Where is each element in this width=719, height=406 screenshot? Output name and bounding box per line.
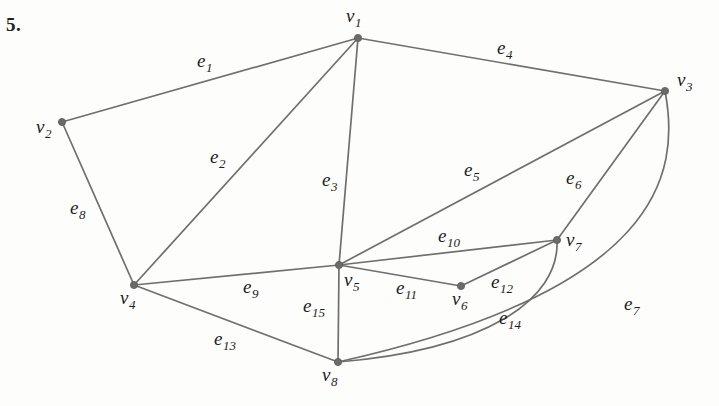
label-base: e [322, 169, 330, 190]
label-base: v [346, 5, 354, 26]
label-base: e [303, 295, 311, 316]
label-subscript: 3 [331, 179, 338, 194]
graph-vertex-v1 [354, 34, 361, 41]
edge-label-e12: e12 [491, 272, 512, 291]
edge-label-e7: e7 [624, 294, 639, 313]
vertex-label-v5: v5 [344, 270, 359, 289]
graph-edge-e2 [134, 38, 358, 285]
edge-label-e13: e13 [214, 329, 235, 348]
label-subscript: 13 [223, 338, 236, 353]
label-base: e [214, 328, 222, 349]
graph-edge-e3 [339, 38, 358, 265]
label-base: e [210, 146, 218, 167]
label-subscript: 2 [219, 156, 226, 171]
edge-label-e4: e4 [497, 38, 512, 57]
label-base: v [36, 116, 44, 137]
graph-canvas [0, 0, 719, 406]
edge-label-e10: e10 [438, 226, 459, 245]
label-subscript: 15 [312, 305, 325, 320]
label-base: e [566, 167, 574, 188]
edge-label-e9: e9 [243, 277, 258, 296]
label-subscript: 5 [473, 169, 480, 184]
label-base: e [396, 277, 404, 298]
vertex-label-v6: v6 [452, 289, 467, 308]
graph-edge-e5 [339, 91, 665, 265]
label-base: e [499, 307, 507, 328]
label-subscript: 9 [252, 286, 259, 301]
label-subscript: 12 [500, 281, 513, 296]
edge-label-e3: e3 [322, 170, 337, 189]
label-base: e [243, 276, 251, 297]
label-base: e [624, 293, 632, 314]
graph-edge-e14 [338, 240, 557, 362]
vertex-label-v2: v2 [36, 117, 51, 136]
edge-label-e2: e2 [210, 147, 225, 166]
label-subscript: 3 [686, 79, 693, 94]
label-base: e [197, 50, 205, 71]
graph-vertex-v5 [335, 261, 342, 268]
label-base: e [464, 159, 472, 180]
label-subscript: 6 [461, 298, 468, 313]
graph-edge-e9 [134, 265, 339, 285]
graph-edge-e15 [338, 265, 339, 362]
edge-label-e15: e15 [303, 296, 324, 315]
label-subscript: 11 [405, 287, 417, 302]
edge-label-e8: e8 [70, 198, 85, 217]
edge-label-e5: e5 [464, 160, 479, 179]
label-base: v [344, 269, 352, 290]
label-subscript: 1 [206, 60, 213, 75]
graph-vertex-v2 [58, 118, 65, 125]
vertex-label-v7: v7 [566, 230, 581, 249]
label-base: e [491, 271, 499, 292]
edge-label-e11: e11 [396, 278, 416, 297]
label-subscript: 7 [633, 303, 640, 318]
edges-group [62, 38, 669, 362]
label-base: v [452, 288, 460, 309]
graph-vertex-v7 [553, 236, 560, 243]
vertices-group [58, 34, 668, 365]
label-base: e [438, 225, 446, 246]
graph-edge-e6 [557, 91, 665, 240]
label-subscript: 4 [506, 47, 513, 62]
vertex-label-v4: v4 [120, 288, 135, 307]
label-subscript: 5 [353, 279, 360, 294]
label-subscript: 7 [575, 239, 582, 254]
edge-label-e1: e1 [197, 51, 212, 70]
edge-label-e6: e6 [566, 168, 581, 187]
label-base: v [120, 287, 128, 308]
label-subscript: 4 [129, 297, 136, 312]
label-subscript: 6 [575, 177, 582, 192]
graph-vertex-v3 [661, 87, 668, 94]
label-subscript: 8 [331, 374, 338, 389]
problem-figure-page: 5. e1e2e3e4e5e6e7e8e9e10e11e12e13e14e15v… [0, 0, 719, 406]
label-base: v [566, 229, 574, 250]
label-base: v [322, 364, 330, 385]
vertex-label-v8: v8 [322, 365, 337, 384]
label-subscript: 1 [355, 15, 362, 30]
vertex-label-v1: v1 [346, 6, 361, 25]
label-subscript: 2 [45, 126, 52, 141]
label-base: v [677, 69, 685, 90]
label-base: e [70, 197, 78, 218]
label-subscript: 14 [508, 317, 521, 332]
label-base: e [497, 37, 505, 58]
vertex-label-v3: v3 [677, 70, 692, 89]
label-subscript: 8 [79, 207, 86, 222]
edge-label-e14: e14 [499, 308, 520, 327]
label-subscript: 10 [447, 235, 460, 250]
